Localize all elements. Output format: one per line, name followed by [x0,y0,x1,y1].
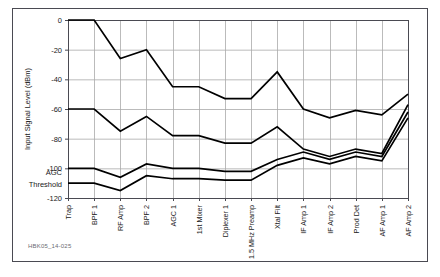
x-tick-label: BPF 1 [90,205,99,225]
x-tick-label: AF Amp 1 [378,205,387,237]
data-series-group [68,20,408,191]
x-tick-label: RF Amp [116,205,125,231]
data-series-line [68,20,408,118]
data-series-line [68,118,408,191]
y-tick-label: -20 [51,46,62,55]
y-tick-label: -120 [47,194,62,203]
x-tick-label: Prod Det [352,205,361,233]
x-tick-label: Diplexer 1 [221,205,230,237]
x-tick-label: BPF 2 [142,205,151,225]
x-tick-label: AGC 1 [169,205,178,227]
data-series-line [68,112,408,177]
x-tick-label: 1.5 MHz Preamp [247,205,256,259]
figure-caption-id: HBK05_14-025 [28,243,71,249]
chart-plot: 0-20-40-60-80-100-120Input Signal Level … [0,0,440,277]
x-tick-label: Xtal Filt [273,205,282,229]
y-tick-label: -60 [51,105,62,114]
y-axis-title: Input Signal Level (dBm) [23,67,32,150]
y-tick-label: 0 [58,16,62,25]
agc-annotation-line-2: Threshold [29,180,62,189]
data-series-line [68,105,408,157]
x-tick-label: IF Amp 2 [326,205,335,234]
y-tick-label: -40 [51,75,62,84]
agc-annotation-line-1: AGC [46,168,63,177]
x-axis: TrapBPF 1RF AmpBPF 2AGC 11st MixerDiplex… [64,198,413,259]
x-tick-label: Trap [64,205,73,220]
x-tick-label: IF Amp 1 [299,205,308,234]
figure-container: 0-20-40-60-80-100-120Input Signal Level … [0,0,440,277]
x-tick-label: 1st Mixer [195,204,204,234]
y-tick-label: -80 [51,135,62,144]
x-tick-label: AF Amp 2 [404,205,413,237]
